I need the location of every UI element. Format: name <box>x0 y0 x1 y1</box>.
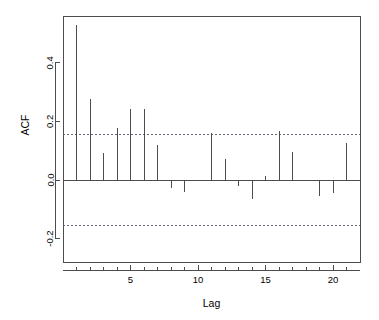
y-axis-title: ACF <box>19 115 31 136</box>
x-axis-title: Lag <box>203 297 221 309</box>
plot-background <box>0 0 379 320</box>
acf-plot-figure: 0.40.20.0-0.2 5101520 ACF Lag <box>0 0 379 320</box>
x-tick-label: 15 <box>260 274 271 285</box>
x-tick-label: 20 <box>328 274 339 285</box>
x-tick-label: 10 <box>193 274 204 285</box>
acf-plot-canvas: 0.40.20.0-0.2 5101520 ACF Lag <box>0 0 379 320</box>
x-tick-label: 5 <box>128 274 133 285</box>
y-tick-label: 0.4 <box>45 56 56 69</box>
y-tick-label: 0.0 <box>45 173 56 186</box>
y-tick-label: -0.2 <box>45 230 56 246</box>
y-tick-label: 0.2 <box>45 115 56 128</box>
